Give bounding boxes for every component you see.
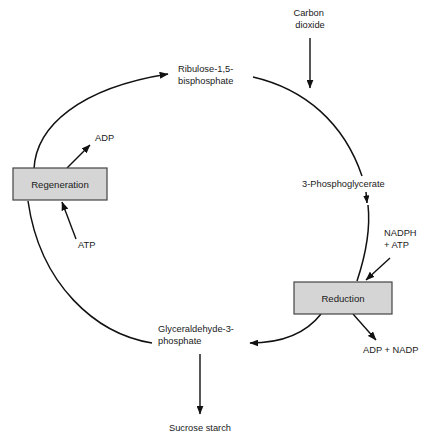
label-adp-nadp-line-1: ADP + NADP	[363, 345, 418, 355]
reduction-box-label: Reduction	[321, 293, 364, 304]
arrow-phosphoglycerate-to-reduction	[357, 205, 369, 281]
label-nadph-atp-line-1: NADPH	[384, 228, 417, 238]
label-phosphoglycerate-line-1: 3-Phosphoglycerate	[302, 179, 385, 189]
arrow-nadph-atp-to-reduction	[366, 258, 390, 280]
arrow-reduction-to-glyceraldehyde	[250, 314, 321, 343]
arrow-regeneration-to-adp	[67, 145, 90, 168]
label-adp-nadp: ADP + NADP	[363, 345, 418, 355]
label-glyceraldehyde-phosphate: Glyceraldehyde-3- phosphate	[158, 324, 237, 346]
label-nadph-atp-line-2: + ATP	[384, 240, 409, 250]
label-ribulose-bisphosphate: Ribulose-1,5- bisphosphate	[178, 64, 236, 86]
diagram-canvas: Regeneration Reduction Carbon dioxide Ri…	[0, 0, 437, 443]
regeneration-box-label: Regeneration	[31, 179, 89, 190]
label-phosphoglycerate: 3-Phosphoglycerate	[302, 179, 385, 189]
label-carbon-dioxide-line-2: dioxide	[295, 20, 324, 30]
label-sucrose-starch-line-1: Sucrose starch	[169, 423, 231, 433]
label-sucrose-starch: Sucrose starch	[169, 423, 231, 433]
arrow-ribulose-to-phosphoglycerate	[253, 77, 362, 176]
label-atp: ATP	[78, 240, 95, 250]
arrow-reduction-to-adp-nadp	[353, 314, 376, 340]
label-carbon-dioxide-line-1: Carbon	[293, 8, 324, 18]
label-glyceraldehyde-line-2: phosphate	[158, 336, 201, 346]
arrow-phosphoglycerate-downtick	[366, 192, 367, 203]
label-adp-line-1: ADP	[95, 133, 114, 143]
label-ribulose-line-1: Ribulose-1,5-	[178, 64, 233, 74]
arrow-regeneration-to-ribulose	[34, 74, 168, 169]
node-box-regeneration[interactable]: Regeneration	[13, 168, 107, 200]
label-glyceraldehyde-line-1: Glyceraldehyde-3-	[158, 324, 234, 334]
label-atp-line-1: ATP	[78, 240, 95, 250]
node-box-reduction[interactable]: Reduction	[294, 282, 392, 314]
arrow-glyceraldehyde-to-regeneration	[28, 201, 152, 343]
calvin-cycle-diagram: Regeneration Reduction Carbon dioxide Ri…	[0, 0, 437, 443]
label-nadph-atp: NADPH + ATP	[384, 228, 419, 250]
arrow-atp-to-regeneration	[62, 202, 76, 239]
label-ribulose-line-2: bisphosphate	[178, 76, 233, 86]
label-carbon-dioxide: Carbon dioxide	[293, 8, 326, 30]
label-adp: ADP	[95, 133, 114, 143]
